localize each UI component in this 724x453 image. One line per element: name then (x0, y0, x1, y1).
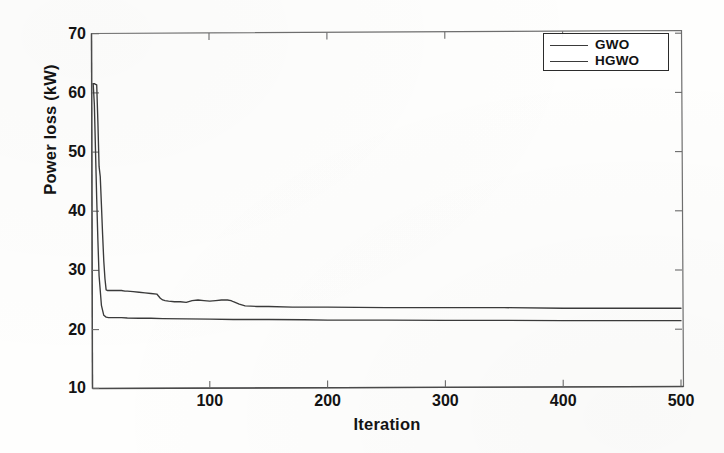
legend-item-gwo: GWO (550, 37, 663, 53)
legend-label-hgwo: HGWO (595, 54, 639, 68)
x-tick-marks (209, 31, 681, 388)
legend-line-swatch-hgwo (550, 61, 588, 62)
y-tick-30: 30 (42, 261, 86, 279)
legend-line-swatch-gwo (550, 45, 588, 46)
series-line-hgwo (93, 84, 681, 321)
x-tick-400: 400 (528, 392, 598, 410)
y-tick-marks (92, 33, 682, 388)
x-tick-500: 500 (646, 392, 716, 410)
x-axis-title: Iteration (92, 415, 682, 434)
data-series-layer (93, 84, 681, 321)
series-line-gwo (93, 84, 681, 309)
y-axis-title: Power loss (kW) (41, 10, 60, 250)
legend-item-hgwo: HGWO (550, 53, 663, 69)
legend-box: GWO HGWO (543, 33, 669, 71)
convergence-chart-figure: 70 60 50 40 30 20 10 100 200 300 400 500… (0, 0, 724, 453)
legend-label-gwo: GWO (595, 38, 629, 52)
axes-frame (92, 31, 684, 389)
x-tick-300: 300 (410, 392, 480, 410)
x-tick-200: 200 (293, 392, 363, 410)
x-tick-100: 100 (175, 392, 245, 410)
y-tick-20: 20 (42, 321, 86, 339)
